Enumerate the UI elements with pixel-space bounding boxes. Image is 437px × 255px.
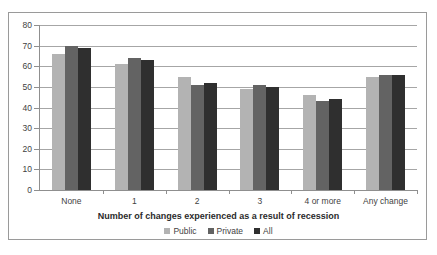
y-axis-tick-label: 30	[10, 124, 32, 133]
x-axis-category-labels: None1234 or moreAny change	[40, 195, 417, 209]
x-axis-category-label: 1	[103, 195, 166, 207]
y-axis-tick-mark	[34, 169, 39, 170]
y-axis-tick-label: 80	[10, 21, 32, 30]
bar-all	[392, 75, 405, 191]
y-axis-tick-mark	[34, 149, 39, 150]
bar-public	[115, 64, 128, 190]
bar-public	[178, 77, 191, 190]
legend-item-private[interactable]: Private	[208, 227, 243, 236]
x-axis-category-label: 4 or more	[291, 195, 354, 207]
bars-layer	[40, 25, 417, 190]
y-axis-tick-mark	[34, 190, 39, 191]
bar-group	[354, 25, 417, 190]
legend-label: Private	[217, 227, 243, 236]
y-axis-tick-label: 0	[10, 186, 32, 195]
x-axis-category-label: 2	[166, 195, 229, 207]
bar-all	[141, 60, 154, 190]
bar-group	[40, 25, 103, 190]
y-axis-tick-mark	[34, 46, 39, 47]
bar-group	[229, 25, 292, 190]
y-axis-tick-label: 10	[10, 165, 32, 174]
x-axis-title: Number of changes experienced as a resul…	[9, 210, 428, 222]
y-axis-tick-mark	[34, 108, 39, 109]
legend-swatch-icon	[254, 228, 260, 234]
bar-private	[253, 85, 266, 190]
x-axis-tick-mark	[103, 190, 104, 194]
bar-public	[303, 95, 316, 190]
bar-group	[291, 25, 354, 190]
bar-public	[366, 77, 379, 190]
bar-private	[191, 85, 204, 190]
bar-all	[204, 83, 217, 190]
chart-container: 80706050403020100 None1234 or moreAny ch…	[8, 12, 427, 240]
bar-private	[379, 75, 392, 191]
bar-private	[65, 46, 78, 190]
legend-label: Public	[173, 227, 196, 236]
legend-swatch-icon	[164, 228, 170, 234]
y-axis-tick-label: 20	[10, 145, 32, 154]
y-axis-tick-mark	[34, 128, 39, 129]
x-axis-tick-mark	[354, 190, 355, 194]
bar-public	[240, 89, 253, 190]
x-axis-tick-mark	[166, 190, 167, 194]
x-axis-tick-marks	[40, 190, 417, 194]
chart-legend: PublicPrivateAll	[9, 227, 428, 236]
x-axis-category-label: None	[40, 195, 103, 207]
x-axis-category-label: Any change	[354, 195, 417, 207]
bar-private	[128, 58, 141, 190]
x-axis-tick-mark	[417, 190, 418, 194]
legend-swatch-icon	[208, 228, 214, 234]
legend-label: All	[263, 227, 272, 236]
y-axis-tick-label: 40	[10, 103, 32, 112]
y-axis-tick-mark	[34, 87, 39, 88]
y-axis-tick-label: 60	[10, 62, 32, 71]
bar-group	[103, 25, 166, 190]
legend-item-all[interactable]: All	[254, 227, 272, 236]
bar-private	[316, 101, 329, 190]
y-axis-tick-label: 50	[10, 83, 32, 92]
x-axis-tick-mark	[291, 190, 292, 194]
bar-all	[329, 99, 342, 190]
bar-group	[166, 25, 229, 190]
bar-public	[52, 54, 65, 190]
y-axis-tick-label: 70	[10, 41, 32, 50]
x-axis-tick-mark	[229, 190, 230, 194]
x-axis-category-label: 3	[229, 195, 292, 207]
bar-all	[266, 87, 279, 190]
y-axis-tick-mark	[34, 66, 39, 67]
bar-all	[78, 48, 91, 190]
y-axis-tick-labels: 80706050403020100	[9, 25, 32, 190]
y-axis-tick-mark	[34, 25, 39, 26]
legend-item-public[interactable]: Public	[164, 227, 196, 236]
